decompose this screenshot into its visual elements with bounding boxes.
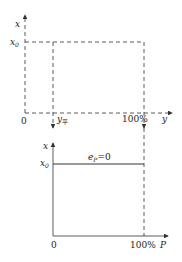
diagram: x x0 0 y平 100% y x x0 eP=0 0 100% P [0,0,182,262]
top-x0-label: x0 [10,37,19,48]
bottom-origin-label: 0 [51,240,57,250]
bottom-100-label: 100% [130,240,156,250]
ep-zero-label: eP=0 [88,152,111,163]
top-x-axis-label: y [161,114,168,124]
bottom-plot [53,128,168,236]
top-origin-label: 0 [21,116,27,126]
bottom-x-axis-label: P [159,240,167,250]
bottom-x0-label: x0 [40,158,49,169]
bottom-y-axis-label: x [43,141,48,151]
top-plot [25,15,172,128]
top-y-axis-label: x [15,19,20,29]
top-ybalance-label: y平 [56,114,68,126]
top-100-label: 100% [122,114,148,124]
